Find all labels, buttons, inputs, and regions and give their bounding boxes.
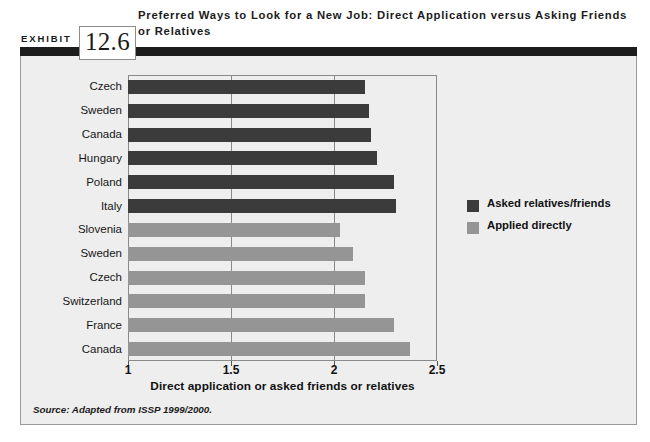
y-axis-tick-label: Slovenia xyxy=(12,223,122,235)
bar xyxy=(128,199,396,213)
y-axis-tick-label: Canada xyxy=(12,343,122,355)
y-axis-tick-label: Sweden xyxy=(12,104,122,116)
y-axis-tick-label: Poland xyxy=(12,176,122,188)
source-note: Source: Adapted from ISSP 1999/2000. xyxy=(33,404,212,415)
y-axis-tick-label: Czech xyxy=(12,271,122,283)
bar xyxy=(128,294,365,308)
bar xyxy=(128,318,394,332)
bar xyxy=(128,342,410,356)
exhibit-number-box: 12.6 xyxy=(79,26,136,60)
x-axis-tick-label: 2.5 xyxy=(429,363,446,377)
bar xyxy=(128,223,340,237)
bar xyxy=(128,80,365,94)
x-axis-tick-label: 1 xyxy=(125,363,132,377)
y-axis-tick-label: Sweden xyxy=(12,247,122,259)
legend-label: Applied directly xyxy=(487,219,572,231)
x-axis-tick-label: 2 xyxy=(331,363,338,377)
legend-swatch-icon xyxy=(467,200,479,212)
legend-swatch-icon xyxy=(467,222,479,234)
y-axis-tick-label: Switzerland xyxy=(12,295,122,307)
x-axis-tick-label: 1.5 xyxy=(223,363,240,377)
exhibit-figure: EXHIBIT Preferred Ways to Look for a New… xyxy=(0,0,650,442)
x-axis-title: Direct application or asked friends or r… xyxy=(128,379,437,393)
bar xyxy=(128,151,377,165)
y-axis-tick-label: Canada xyxy=(12,128,122,140)
y-axis-tick-label: Hungary xyxy=(12,152,122,164)
legend-label: Asked relatives/friends xyxy=(487,197,611,209)
bar xyxy=(128,271,365,285)
exhibit-title: Preferred Ways to Look for a New Job: Di… xyxy=(138,8,638,39)
bar xyxy=(128,104,369,118)
bar xyxy=(128,247,353,261)
y-axis-tick-label: Italy xyxy=(12,200,122,212)
bar xyxy=(128,128,371,142)
y-axis-category-labels: CzechSwedenCanadaHungaryPolandItalySlove… xyxy=(10,75,122,361)
bar xyxy=(128,175,394,189)
exhibit-number: 12.6 xyxy=(80,28,135,56)
y-axis-tick-label: France xyxy=(12,319,122,331)
y-axis-tick-label: Czech xyxy=(12,80,122,92)
exhibit-label: EXHIBIT xyxy=(21,33,72,44)
